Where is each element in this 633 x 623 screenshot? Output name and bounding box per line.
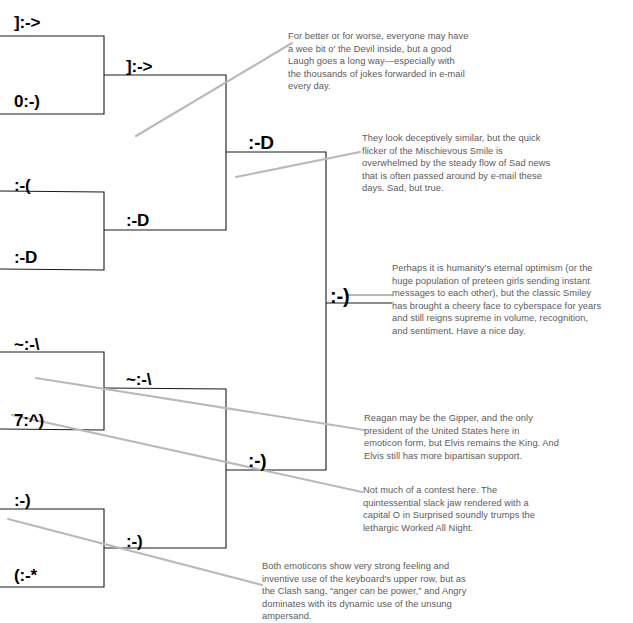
- leader-line-note-6: [8, 519, 262, 585]
- winner-r2-top[interactable]: ]:->: [126, 58, 152, 75]
- note-angry-vs-clash: Both emoticons show very strong feeling …: [262, 560, 480, 623]
- leader-line-note-5: [12, 415, 362, 492]
- winner-r2-bottom[interactable]: :-): [126, 533, 142, 550]
- leader-line-group: [8, 43, 392, 585]
- competitor-r1-devil[interactable]: ]:->: [14, 14, 40, 31]
- competitor-r1-angel[interactable]: 0:-): [14, 93, 40, 110]
- leader-line-note-4: [36, 378, 364, 430]
- winner-r2-upper-middle[interactable]: :-D: [126, 212, 149, 229]
- competitor-r1-surprised[interactable]: (:-*: [14, 567, 37, 584]
- rail-r2-pair1: [104, 75, 226, 230]
- competitor-r1-smiley[interactable]: :-): [14, 492, 30, 509]
- competitor-r1-laugh[interactable]: :-D: [14, 249, 37, 266]
- rail-group-round2: [104, 75, 226, 548]
- winner-r3-top[interactable]: :-D: [248, 133, 274, 152]
- rail-r2-pair2: [104, 388, 226, 548]
- competitor-r1-sad[interactable]: :-(: [14, 177, 30, 194]
- note-surprised-vs-worked-all-night: Not much of a contest here. The quintess…: [363, 484, 555, 534]
- note-sad-vs-mischievous: They look deceptively similar, but the q…: [362, 132, 554, 195]
- leader-line-note-2: [236, 152, 360, 177]
- competitor-r1-angry[interactable]: ~:-\: [14, 336, 39, 353]
- competitor-r1-elvis[interactable]: 7:^): [14, 412, 44, 429]
- note-reagan-vs-elvis: Reagan may be the Gipper, and the only p…: [364, 412, 560, 462]
- winner-r3-bottom[interactable]: :-): [248, 451, 266, 470]
- champion-label[interactable]: :-): [330, 286, 349, 306]
- winner-r2-lower-middle[interactable]: ~:-\: [126, 371, 151, 388]
- leader-line-note-1: [136, 43, 292, 136]
- note-devil-vs-laugh: For better or for worse, everyone may ha…: [288, 30, 470, 93]
- note-champion-smiley: Perhaps it is humanity's eternal optimis…: [392, 262, 606, 338]
